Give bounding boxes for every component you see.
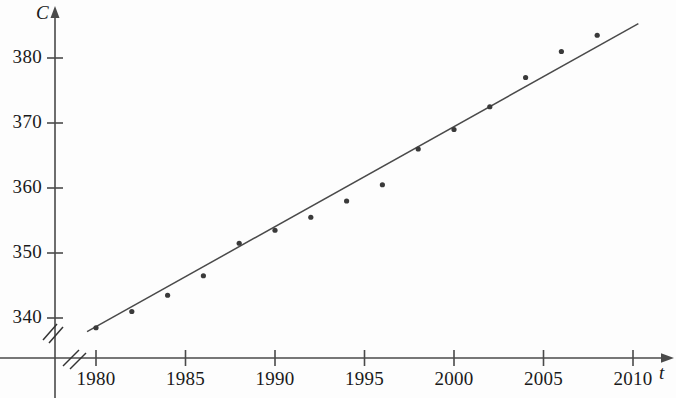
data-point bbox=[380, 182, 385, 187]
arrow-up-icon bbox=[51, 6, 60, 18]
data-point bbox=[416, 146, 421, 151]
x-axis bbox=[0, 353, 674, 363]
scatter-plot-figure: 340350360370380 198019851990199520002005… bbox=[0, 0, 676, 398]
data-point bbox=[201, 273, 206, 278]
x-tick-label: 2005 bbox=[518, 368, 570, 390]
x-tick-label: 2000 bbox=[428, 368, 480, 390]
data-point bbox=[559, 49, 564, 54]
y-tick-label: 380 bbox=[0, 46, 42, 68]
trend-line bbox=[87, 24, 638, 332]
x-tick-label: 2010 bbox=[607, 368, 659, 390]
data-point bbox=[308, 215, 313, 220]
data-point bbox=[129, 309, 134, 314]
regression-line bbox=[87, 24, 638, 332]
data-point bbox=[272, 228, 277, 233]
data-point bbox=[451, 127, 456, 132]
data-point bbox=[595, 33, 600, 38]
plot-canvas bbox=[0, 0, 676, 398]
x-tick-label: 1990 bbox=[249, 368, 301, 390]
x-tick-label: 1995 bbox=[339, 368, 391, 390]
data-point bbox=[165, 293, 170, 298]
x-axis-label: t bbox=[659, 362, 664, 384]
y-tick-label: 340 bbox=[0, 306, 42, 328]
y-tick-label: 360 bbox=[0, 176, 42, 198]
data-point bbox=[344, 198, 349, 203]
x-tick-label: 1980 bbox=[70, 368, 122, 390]
x-axis-break-icon bbox=[63, 350, 86, 369]
y-tick-label: 370 bbox=[0, 111, 42, 133]
y-tick-label: 350 bbox=[0, 241, 42, 263]
data-point bbox=[237, 241, 242, 246]
y-axis-label: C bbox=[36, 2, 49, 24]
data-point bbox=[487, 104, 492, 109]
data-point bbox=[93, 325, 98, 330]
data-point bbox=[523, 75, 528, 80]
x-tick-label: 1985 bbox=[160, 368, 212, 390]
y-axis-break-icon bbox=[43, 324, 63, 343]
